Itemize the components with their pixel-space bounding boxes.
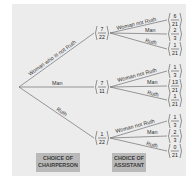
stage-label-chairperson: CHOICE OF CHAIRPERSON: [36, 153, 80, 172]
leaf-g2-woman: 1 3: [169, 64, 182, 78]
svg-text:13: 13: [172, 79, 178, 85]
node-ruth: 1 22: [96, 131, 109, 145]
svg-text:7: 7: [101, 80, 104, 86]
svg-text:3: 3: [174, 137, 177, 143]
svg-text:21: 21: [172, 152, 178, 158]
stage-label-assistant-line2: ASSISTANT: [112, 162, 146, 169]
svg-text:21: 21: [172, 101, 178, 107]
svg-text:3: 3: [174, 72, 177, 78]
svg-text:0: 0: [174, 144, 177, 150]
leaf-g2-man: 13 21: [169, 79, 182, 93]
svg-text:7: 7: [101, 26, 104, 32]
branch-ruth: [19, 87, 94, 138]
label-g2-ruth: Ruth: [147, 89, 160, 98]
node-woman-not-ruth: 7 22: [96, 26, 109, 40]
label-g1-ruth: Ruth: [145, 37, 158, 46]
leaf-g2-ruth: 1 21: [169, 93, 182, 107]
stage-label-assistant: CHOICE OF ASSISTANT: [112, 153, 146, 172]
label-g2-man: Man: [147, 79, 158, 85]
svg-text:1: 1: [101, 131, 104, 137]
svg-text:22: 22: [99, 34, 105, 40]
leaf-g3-man: 2 3: [169, 129, 182, 143]
svg-text:1: 1: [174, 114, 177, 120]
leaf-g1-man: 2 3: [169, 27, 182, 41]
branch-label-man: Man: [52, 80, 63, 86]
svg-text:2: 2: [174, 129, 177, 135]
stage-label-chairperson-line2: CHAIRPERSON: [36, 162, 80, 169]
svg-text:11: 11: [99, 88, 104, 94]
leaf-g1-ruth: 1 21: [169, 42, 182, 56]
branch-woman-not-ruth: [19, 33, 94, 87]
label-g1-man: Man: [145, 27, 156, 33]
svg-text:21: 21: [172, 50, 178, 56]
leaf-g1-woman: 6 21: [169, 13, 182, 27]
svg-text:3: 3: [174, 122, 177, 128]
stage-label-assistant-line1: CHOICE OF: [112, 155, 146, 162]
node-man: 7 11: [96, 80, 109, 94]
label-g3-ruth: Ruth: [146, 140, 159, 149]
svg-text:1: 1: [174, 64, 177, 70]
svg-text:6: 6: [174, 13, 177, 19]
leaf-g3-ruth: 0 21: [169, 144, 182, 158]
svg-text:3: 3: [174, 35, 177, 41]
leaf-g3-woman: 1 3: [169, 114, 182, 128]
branch-label-woman-not-ruth: Woman who is not Ruth: [27, 39, 77, 77]
svg-text:2: 2: [174, 27, 177, 33]
label-g3-man: Man: [147, 129, 158, 135]
svg-text:22: 22: [99, 139, 105, 145]
branch-label-ruth: Ruth: [55, 106, 68, 117]
svg-text:1: 1: [174, 93, 177, 99]
svg-text:1: 1: [174, 42, 177, 48]
stage-label-chairperson-line1: CHOICE OF: [36, 155, 80, 162]
probability-tree: Woman who is not Ruth Man Ruth 7 22 7 11…: [0, 0, 192, 186]
